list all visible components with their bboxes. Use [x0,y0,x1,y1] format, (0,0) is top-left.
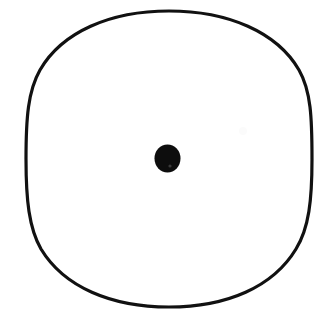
center-dot-highlight [168,164,171,167]
center-point-dot [155,145,181,173]
scan-speck [239,127,247,135]
circle-diagram-figure [0,0,331,323]
diagram-canvas: A single large hand-drawn black circle o… [0,0,331,323]
